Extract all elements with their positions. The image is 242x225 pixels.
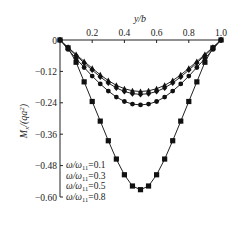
- circle-marker-icon: [146, 102, 151, 107]
- square-marker-icon: [130, 183, 135, 188]
- y-tick-label: −0.48: [35, 161, 57, 171]
- square-marker-icon: [186, 99, 191, 104]
- axes: 0.20.40.60.81.00−0.12−0.24−0.36−0.48−0.6…: [35, 28, 227, 203]
- square-marker-icon: [82, 79, 87, 84]
- circle-marker-icon: [162, 95, 167, 100]
- x-tick-label: 0.6: [151, 28, 163, 38]
- x-axis-title: y/b: [133, 13, 146, 24]
- square-marker-icon: [170, 138, 175, 143]
- circle-marker-icon: [98, 82, 103, 87]
- square-marker-icon: [90, 99, 95, 104]
- x-tick-label: 1.0: [215, 28, 227, 38]
- square-marker-icon: [218, 37, 223, 42]
- legend-item: ω/ω11=0.8: [66, 192, 106, 203]
- x-tick-label: 0.4: [118, 28, 130, 38]
- x-tick-label: 0.2: [86, 28, 98, 38]
- circle-marker-icon: [90, 74, 95, 79]
- circle-marker-icon: [178, 82, 183, 87]
- circle-marker-icon: [106, 89, 111, 94]
- y-tick-label: −0.60: [35, 193, 57, 203]
- circle-marker-icon: [194, 65, 199, 70]
- diamond-marker-icon: [170, 80, 175, 86]
- square-marker-icon: [98, 119, 103, 124]
- square-marker-icon: [154, 172, 159, 177]
- legend-item: ω/ω11=0.3: [66, 171, 106, 182]
- square-marker-icon: [210, 45, 215, 50]
- circle-marker-icon: [186, 74, 191, 79]
- y-axis-title: Mx/(qa2): [18, 103, 31, 139]
- circle-marker-icon: [154, 99, 159, 104]
- y-tick-label: −0.36: [35, 130, 57, 140]
- y-tick-label: −0.24: [35, 98, 57, 108]
- legend-item: ω/ω11=0.1: [66, 160, 106, 171]
- circle-marker-icon: [130, 102, 135, 107]
- y-tick-label: 0: [52, 36, 57, 46]
- square-marker-icon: [138, 187, 143, 192]
- circle-marker-icon: [122, 99, 127, 104]
- chart-canvas: 0.20.40.60.81.00−0.12−0.24−0.36−0.48−0.6…: [0, 0, 242, 225]
- square-marker-icon: [194, 79, 199, 84]
- square-marker-icon: [106, 138, 111, 143]
- square-marker-icon: [114, 156, 119, 161]
- legend: ω/ω11=0.1ω/ω11=0.3ω/ω11=0.5ω/ω11=0.8: [66, 160, 106, 203]
- square-marker-icon: [162, 156, 167, 161]
- circle-marker-icon: [82, 65, 87, 70]
- square-marker-icon: [202, 60, 207, 65]
- circle-marker-icon: [114, 95, 119, 100]
- square-marker-icon: [178, 119, 183, 124]
- circle-marker-icon: [138, 102, 143, 107]
- x-tick-label: 0.8: [183, 28, 195, 38]
- square-marker-icon: [65, 45, 70, 50]
- square-marker-icon: [146, 183, 151, 188]
- circle-marker-icon: [170, 89, 175, 94]
- legend-item: ω/ω11=0.5: [66, 181, 106, 192]
- square-marker-icon: [122, 172, 127, 177]
- diamond-marker-icon: [106, 80, 111, 86]
- square-marker-icon: [74, 60, 79, 65]
- y-tick-label: −0.12: [35, 67, 57, 77]
- square-marker-icon: [57, 37, 62, 42]
